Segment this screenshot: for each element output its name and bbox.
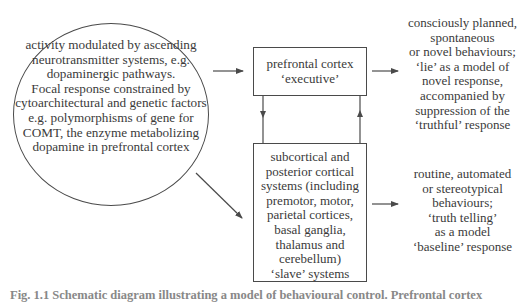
circle-text-line: cytoarchitectural and genetic factors [13, 96, 209, 111]
executive-output-line: accompanied by [395, 89, 525, 104]
arrow-up-head [357, 110, 363, 117]
slave-box-line: premotor, motor, [254, 194, 366, 209]
circle-text-line: Focal response constrained by [13, 82, 209, 97]
slave-output-line: as a model [400, 225, 525, 240]
circle-text-line: activity modulated by ascending [13, 38, 209, 53]
circle-text-line: dopaminergic pathways. [13, 67, 209, 82]
executive-output-text: consciously planned, spontaneous or nove… [395, 16, 525, 133]
executive-box-line: prefrontal cortex [254, 57, 366, 72]
slave-output-text: routine, automated or stereotypical beha… [400, 167, 525, 255]
slave-box-line: basal ganglia, [254, 223, 366, 238]
slave-box-line: systems (including [254, 179, 366, 194]
slave-box-line: cerebellum) [254, 252, 366, 267]
slave-box-line: posterior cortical [254, 165, 366, 180]
slave-box-line: thalamus and [254, 238, 366, 253]
slave-box-line: ‘slave’ systems [254, 267, 366, 282]
slave-box-line: parietal cortices, [254, 208, 366, 223]
executive-output-line: or novel behaviours; [395, 45, 525, 60]
executive-output-line: consciously planned, [395, 16, 525, 31]
circle-text-line: dopamine in prefrontal cortex [13, 140, 209, 155]
executive-output-line: suppression of the [395, 104, 525, 119]
slave-output-line: ‘baseline’ response [400, 240, 525, 255]
slave-systems-box: subcortical and posterior cortical syste… [253, 143, 367, 282]
slave-output-line: or stereotypical [400, 182, 525, 197]
executive-output-line: novel response, [395, 74, 525, 89]
circle-text-line: COMT, the enzyme metabolizing [13, 126, 209, 141]
slave-box-line: subcortical and [254, 150, 366, 165]
circle-text-line: e.g. polymorphisms of gene for [13, 111, 209, 126]
executive-output-line: spontaneous [395, 31, 525, 46]
arrow-circle-to-slave [196, 173, 242, 218]
slave-output-line: routine, automated [400, 167, 525, 182]
figure-caption: Fig. 1.1 Schematic diagram illustrating … [10, 288, 525, 302]
slave-output-line: behaviours; [400, 196, 525, 211]
executive-box-line: ‘executive’ [254, 72, 366, 87]
circle-text-line: neurotransmitter systems, e.g. [13, 53, 209, 68]
arrow-down-head [260, 111, 266, 118]
executive-output-line: ‘truthful’ response [395, 118, 525, 133]
executive-box: prefrontal cortex ‘executive’ [253, 47, 367, 96]
executive-output-line: ‘lie’ as a model of [395, 60, 525, 75]
slave-output-line: ‘truth telling’ [400, 211, 525, 226]
influences-circle-text: activity modulated by ascending neurotra… [13, 38, 209, 155]
